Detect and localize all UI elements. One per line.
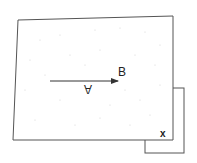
label-x: x [160, 128, 166, 139]
label-b: B [118, 65, 126, 79]
diagram-canvas: B A x [0, 0, 197, 163]
label-a: A [84, 82, 92, 96]
main-sheet [13, 16, 173, 140]
